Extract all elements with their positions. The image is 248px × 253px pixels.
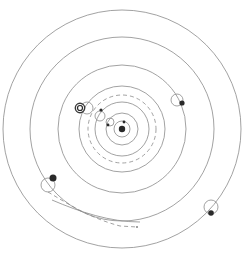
planetary-diagram bbox=[0, 0, 248, 253]
jupiter-path-arc bbox=[52, 200, 140, 222]
mars-icon bbox=[179, 100, 184, 105]
jupiter-icon bbox=[50, 175, 57, 182]
orbit-diagram-svg bbox=[0, 0, 248, 253]
earth-icon bbox=[119, 126, 125, 132]
sun-icon bbox=[78, 106, 83, 111]
mercury-icon bbox=[107, 124, 110, 127]
extras-group bbox=[48, 192, 140, 227]
bodies-group bbox=[41, 94, 218, 228]
saturn-icon bbox=[208, 210, 214, 216]
venus-epicycle bbox=[95, 111, 105, 121]
moon-icon bbox=[123, 121, 126, 124]
comet-icon bbox=[136, 226, 138, 228]
comet-trail bbox=[48, 192, 137, 227]
venus-icon bbox=[99, 108, 102, 111]
